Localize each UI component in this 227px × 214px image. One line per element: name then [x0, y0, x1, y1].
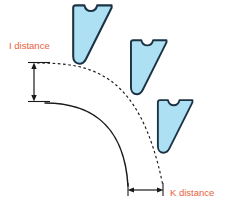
- i-distance-arrow-up: [31, 63, 36, 70]
- diagram-svg: I distance K distance: [0, 0, 227, 214]
- i-distance-dimension: [28, 63, 50, 102]
- solid-arc: [45, 103, 128, 186]
- i-distance-label: I distance: [9, 40, 50, 51]
- diagram-canvas: I distance K distance: [0, 0, 227, 214]
- k-distance-dimension: [128, 183, 164, 196]
- tooth-3: [158, 100, 193, 153]
- i-distance-arrow-down: [31, 95, 36, 102]
- k-distance-label: K distance: [170, 187, 214, 198]
- tooth-1: [73, 5, 111, 63]
- tooth-2: [131, 40, 167, 94]
